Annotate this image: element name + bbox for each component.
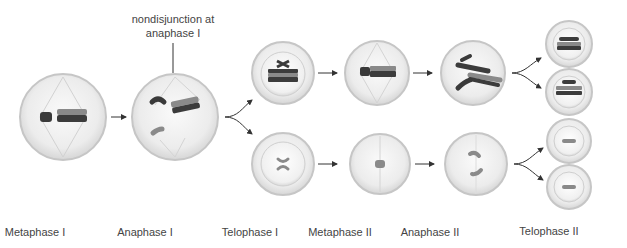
cell-telophase-1-top [252,42,314,104]
stage-label-telophase-2: Telophase II [519,225,578,237]
branch-arrow-down [225,117,252,134]
branch-arrow [512,73,541,88]
annotation-line-2: anaphase I [132,26,215,40]
cell-metaphase-1 [20,74,106,160]
cell-telophase-2-d [547,165,591,209]
cell-metaphase-2-top [345,41,409,105]
meiosis-nondisjunction-diagram [0,0,627,248]
branch-arrow [512,58,541,73]
cell-telophase-2-b [546,69,592,115]
nondisjunction-annotation: nondisjunction at anaphase I [132,12,215,40]
cell-metaphase-2-bottom [350,134,410,194]
cell-anaphase-2-bottom [445,133,507,195]
annotation-line-1: nondisjunction at [132,12,215,26]
stage-label-telophase-1: Telophase I [222,226,278,238]
chromosome-pair [57,109,87,115]
cell-anaphase-2-top [441,41,505,105]
cell-telophase-2-a [546,21,592,67]
cell-anaphase-1 [132,74,218,160]
cell-telophase-2-c [547,119,591,163]
chromosome-dark [40,112,52,122]
cell-telophase-1-bottom [252,133,314,195]
branch-arrow [514,148,543,164]
stage-label-metaphase-1: Metaphase I [5,226,66,238]
branch-arrow-up [225,100,252,117]
stage-label-anaphase-2: Anaphase II [401,226,460,238]
branch-arrow [514,164,543,180]
stage-label-metaphase-2: Metaphase II [308,226,372,238]
stage-label-anaphase-1: Anaphase I [117,226,173,238]
